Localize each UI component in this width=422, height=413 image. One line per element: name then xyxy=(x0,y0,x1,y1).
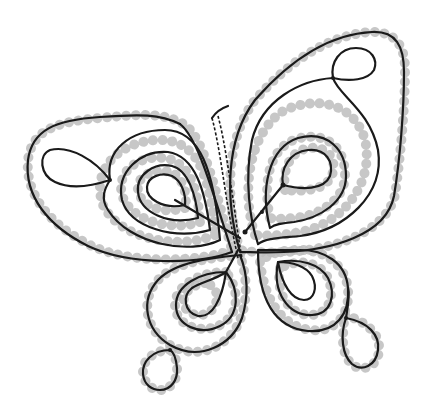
butterfly-drawing xyxy=(0,0,422,413)
upper-right-small-loop xyxy=(332,48,375,80)
antenna xyxy=(212,106,228,118)
butterfly-illustration xyxy=(0,0,422,413)
